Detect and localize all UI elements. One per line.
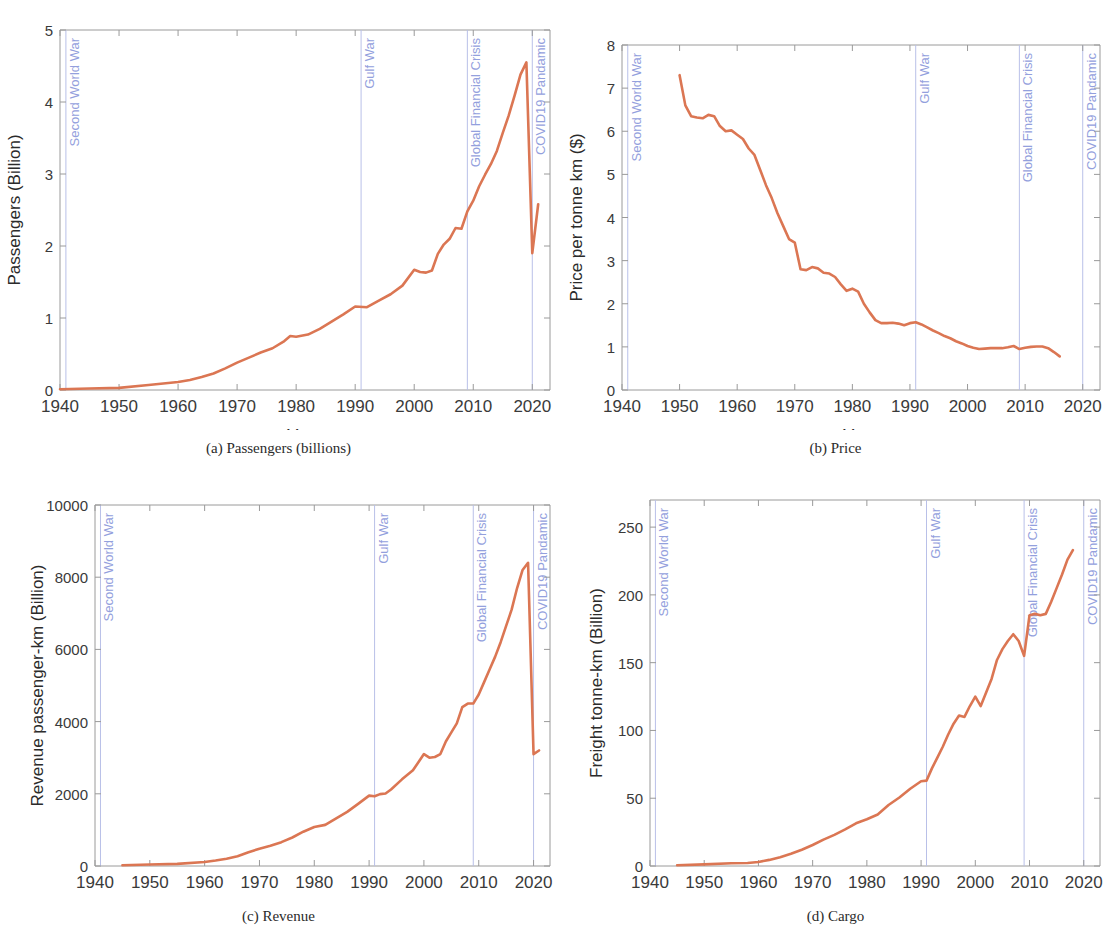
- y-tick-label: 4: [45, 94, 53, 111]
- x-tick-label: 1950: [661, 397, 699, 416]
- caption-a: (a) Passengers (billions): [0, 440, 557, 457]
- caption-d: (d) Cargo: [557, 908, 1114, 925]
- chart-b: Second World WarGulf WarGlobal Financial…: [557, 0, 1114, 430]
- x-tick-label: 1950: [131, 873, 169, 892]
- y-tick-label: 3: [45, 166, 53, 183]
- y-tick-label: 6000: [55, 641, 88, 658]
- x-tick-label: 2000: [949, 397, 987, 416]
- x-tick-label: 2010: [1006, 397, 1044, 416]
- x-tick-label: 2020: [513, 397, 551, 416]
- event-label-3: COVID19 Pandamic: [1084, 53, 1099, 171]
- x-tick-label: 1960: [740, 873, 778, 892]
- x-axis-title: Year: [304, 902, 340, 905]
- event-label-1: Gulf War: [928, 507, 943, 558]
- y-tick-label: 2: [45, 238, 53, 255]
- x-tick-label: 1970: [241, 873, 279, 892]
- y-tick-label: 250: [618, 519, 643, 536]
- y-tick-label: 3: [607, 253, 615, 270]
- y-axis-title: Freight tonne-km (Billion): [587, 588, 606, 778]
- event-label-3: COVID19 Pandamic: [533, 38, 548, 156]
- event-label-0: Second World War: [67, 37, 82, 146]
- event-label-0: Second World War: [629, 52, 644, 161]
- event-label-0: Second World War: [656, 507, 671, 616]
- series-line: [677, 550, 1073, 865]
- x-tick-label: 1940: [631, 873, 669, 892]
- y-axis-title: Revenue passenger-km (Billion): [28, 565, 47, 807]
- x-tick-label: 2000: [395, 397, 433, 416]
- x-tick-label: 1970: [776, 397, 814, 416]
- event-label-3: COVID19 Pandamic: [1085, 508, 1100, 626]
- x-tick-label: 1980: [277, 397, 315, 416]
- x-tick-label: 1960: [186, 873, 224, 892]
- chart-a: Second World WarGulf WarGlobal Financial…: [0, 0, 557, 430]
- panel-b: Second World WarGulf WarGlobal Financial…: [557, 0, 1114, 430]
- event-label-1: Gulf War: [376, 512, 391, 563]
- x-tick-label: 2000: [956, 873, 994, 892]
- y-tick-label: 4000: [55, 714, 88, 731]
- x-tick-label: 1990: [336, 397, 374, 416]
- x-tick-label: 1950: [685, 873, 723, 892]
- x-tick-label: 2020: [515, 873, 553, 892]
- y-tick-label: 4: [607, 210, 615, 227]
- event-label-2: Global Financial Crisis: [474, 513, 489, 643]
- event-label-0: Second World War: [101, 512, 116, 621]
- x-tick-label: 1980: [295, 873, 333, 892]
- x-tick-label: 1960: [159, 397, 197, 416]
- y-tick-label: 150: [618, 655, 643, 672]
- panel-a: Second World WarGulf WarGlobal Financial…: [0, 0, 557, 430]
- event-label-1: Gulf War: [917, 52, 932, 103]
- x-tick-label: 1940: [41, 397, 79, 416]
- y-tick-label: 200: [618, 587, 643, 604]
- figure-container: Second World WarGulf WarGlobal Financial…: [0, 0, 1114, 949]
- panel-d: Second World WarGulf WarGlobal Financial…: [557, 475, 1114, 905]
- y-tick-label: 1: [45, 310, 53, 327]
- y-tick-label: 1: [607, 339, 615, 356]
- event-label-1: Gulf War: [362, 37, 377, 88]
- x-tick-label: 1990: [350, 873, 388, 892]
- y-tick-label: 50: [626, 790, 643, 807]
- event-label-2: Global Financial Crisis: [468, 38, 483, 168]
- x-tick-label: 2020: [1065, 873, 1103, 892]
- x-axis-title: Year: [843, 426, 879, 430]
- x-tick-label: 2010: [1011, 873, 1049, 892]
- y-axis-title: Price per tonne km ($): [567, 133, 586, 301]
- event-label-2: Global Financial Crisis: [1025, 508, 1040, 638]
- x-tick-label: 2010: [460, 873, 498, 892]
- y-tick-label: 8000: [55, 569, 88, 586]
- y-tick-label: 7: [607, 80, 615, 97]
- chart-d: Second World WarGulf WarGlobal Financial…: [557, 475, 1114, 905]
- y-tick-label: 2: [607, 296, 615, 313]
- series-line: [60, 62, 538, 389]
- x-axis-title: Year: [287, 426, 323, 430]
- x-tick-label: 2020: [1064, 397, 1102, 416]
- x-tick-label: 1940: [603, 397, 641, 416]
- x-tick-label: 1970: [794, 873, 832, 892]
- x-tick-label: 2000: [405, 873, 443, 892]
- x-tick-label: 1950: [100, 397, 138, 416]
- y-tick-label: 8: [607, 37, 615, 54]
- x-axis-title: Year: [857, 902, 893, 905]
- chart-c: Second World WarGulf WarGlobal Financial…: [0, 475, 557, 905]
- x-tick-label: 1980: [833, 397, 871, 416]
- x-tick-label: 1990: [891, 397, 929, 416]
- x-tick-label: 1960: [718, 397, 756, 416]
- series-line: [680, 75, 1060, 356]
- event-label-2: Global Financial Crisis: [1020, 53, 1035, 183]
- x-tick-label: 1980: [848, 873, 886, 892]
- y-tick-label: 2000: [55, 786, 88, 803]
- y-axis-title: Passengers (Billion): [5, 134, 24, 285]
- x-tick-label: 1990: [902, 873, 940, 892]
- caption-b: (b) Price: [557, 440, 1114, 457]
- y-tick-label: 100: [618, 722, 643, 739]
- panel-c: Second World WarGulf WarGlobal Financial…: [0, 475, 557, 905]
- event-label-3: COVID19 Pandamic: [535, 513, 550, 631]
- y-tick-label: 5: [45, 22, 53, 39]
- caption-c: (c) Revenue: [0, 908, 557, 925]
- y-tick-label: 6: [607, 123, 615, 140]
- x-tick-label: 1940: [76, 873, 114, 892]
- y-tick-label: 10000: [46, 497, 88, 514]
- y-tick-label: 5: [607, 166, 615, 183]
- x-tick-label: 1970: [218, 397, 256, 416]
- x-tick-label: 2010: [454, 397, 492, 416]
